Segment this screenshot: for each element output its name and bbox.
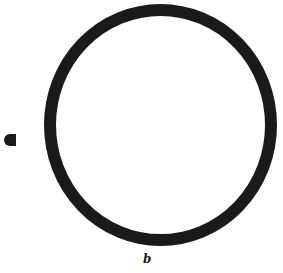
half-disc-marker — [4, 134, 16, 146]
figure-label: b — [143, 252, 151, 266]
diagram-figure — [0, 0, 283, 273]
ring-shape — [50, 10, 271, 240]
